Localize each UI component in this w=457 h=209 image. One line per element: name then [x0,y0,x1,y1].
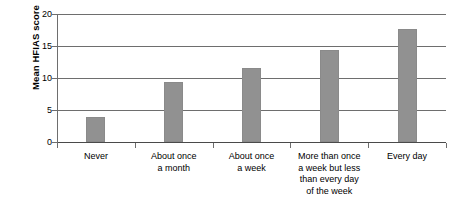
y-tick-label: 15 [36,42,52,51]
x-label-line: Never [57,151,135,163]
x-axis-category-label: About oncea week [213,151,291,174]
bar-chart: Mean HFIAS score 05101520 NeverAbout onc… [0,0,457,209]
plot-area [57,14,446,142]
y-tick-label: 0 [36,138,52,147]
y-axis-tick-labels: 05101520 [36,0,52,209]
axis-baseline [57,142,446,143]
y-tick-label: 20 [36,10,52,19]
gridline [57,14,446,15]
y-tick-label: 5 [36,106,52,115]
y-tick-mark [52,14,58,15]
x-axis-category-label: Never [57,151,135,163]
x-label-line: a week but less [290,163,368,175]
bar [86,117,105,142]
bar [320,50,339,142]
x-label-line: a week [213,163,291,175]
bar [398,29,417,142]
x-label-line: About once [213,151,291,163]
x-label-line: a month [135,163,213,175]
bar [242,68,261,142]
x-tick-mark [290,143,291,148]
x-label-line: About once [135,151,213,163]
x-tick-mark [213,143,214,148]
y-tick-mark [52,110,58,111]
x-axis-category-label: About oncea month [135,151,213,174]
x-tick-mark [57,143,58,148]
x-tick-mark [368,143,369,148]
x-label-line: More than once [290,151,368,163]
x-tick-mark [135,143,136,148]
x-axis-category-label: More than oncea week but lessthan every … [290,151,368,197]
y-tick-label: 10 [36,74,52,83]
x-label-line: of the week [290,186,368,198]
y-tick-mark [52,142,58,143]
x-axis-category-label: Every day [368,151,446,163]
x-tick-mark [446,143,447,148]
y-tick-mark [52,46,58,47]
x-label-line: than every day [290,174,368,186]
x-label-line: Every day [368,151,446,163]
gridline [57,46,446,47]
y-tick-mark [52,78,58,79]
bar [164,82,183,142]
